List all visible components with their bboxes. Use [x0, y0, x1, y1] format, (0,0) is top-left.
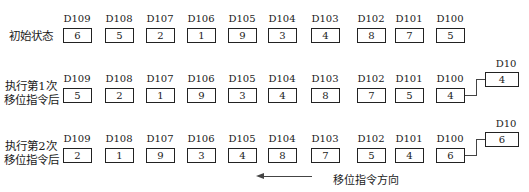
register-name: D101 — [391, 13, 427, 24]
register-value-box: 5 — [105, 28, 134, 43]
register-name: D104 — [264, 13, 300, 24]
row-label-line1: 执行第1次 — [0, 79, 62, 93]
register-value-box: 7 — [311, 148, 340, 163]
direction-label: 移位指令方向 — [333, 171, 399, 187]
output-register-box: 6 — [485, 132, 519, 147]
register-value-box: 7 — [357, 88, 386, 103]
register-name: D109 — [59, 133, 95, 144]
register-value-box: 4 — [228, 148, 257, 163]
register-value-box: 3 — [268, 28, 297, 43]
connector-line — [476, 139, 485, 140]
connector-line — [476, 79, 485, 80]
row-label-line2: 移位指令后 — [0, 93, 62, 107]
register-value-box: 6 — [436, 148, 465, 163]
register-name: D103 — [307, 133, 343, 144]
register-value-box: 3 — [228, 88, 257, 103]
output-register-name: D10 — [488, 118, 524, 129]
register-name: D107 — [142, 73, 178, 84]
register-name: D103 — [307, 73, 343, 84]
register-name: D100 — [432, 73, 468, 84]
register-name: D105 — [224, 73, 260, 84]
register-name: D102 — [353, 73, 389, 84]
register-value-box: 4 — [395, 148, 424, 163]
register-value-box: 8 — [268, 148, 297, 163]
register-name: D106 — [183, 133, 219, 144]
register-name: D101 — [391, 73, 427, 84]
register-value-box: 5 — [63, 88, 92, 103]
register-name: D102 — [353, 13, 389, 24]
register-value-box: 5 — [395, 88, 424, 103]
register-name: D100 — [432, 133, 468, 144]
register-value-box: 4 — [436, 88, 465, 103]
register-value-box: 9 — [146, 148, 175, 163]
register-name: D104 — [264, 133, 300, 144]
row-label: 执行第1次移位指令后 — [0, 79, 62, 107]
register-value-box: 2 — [105, 88, 134, 103]
register-value-box: 3 — [187, 148, 216, 163]
connector-line — [476, 79, 477, 96]
register-name: D108 — [101, 13, 137, 24]
register-name: D101 — [391, 133, 427, 144]
output-register-name: D10 — [488, 58, 524, 69]
register-name: D103 — [307, 13, 343, 24]
row-label-line1: 执行第2次 — [0, 139, 62, 153]
register-name: D107 — [142, 133, 178, 144]
connector-line — [465, 155, 476, 156]
connector-line — [476, 139, 477, 156]
register-value-box: 1 — [187, 28, 216, 43]
register-name: D102 — [353, 133, 389, 144]
row-label: 初始状态 — [0, 29, 62, 43]
register-name: D109 — [59, 13, 95, 24]
register-value-box: 8 — [357, 28, 386, 43]
register-name: D108 — [101, 133, 137, 144]
register-value-box: 4 — [311, 28, 340, 43]
register-value-box: 1 — [105, 148, 134, 163]
output-register-box: 4 — [485, 72, 519, 87]
register-name: D105 — [224, 13, 260, 24]
register-value-box: 2 — [146, 28, 175, 43]
register-name: D100 — [432, 13, 468, 24]
register-value-box: 8 — [311, 88, 340, 103]
register-value-box: 6 — [63, 28, 92, 43]
row-label: 执行第2次移位指令后 — [0, 139, 62, 167]
register-value-box: 4 — [268, 88, 297, 103]
register-name: D109 — [59, 73, 95, 84]
register-value-box: 2 — [63, 148, 92, 163]
register-name: D106 — [183, 13, 219, 24]
register-value-box: 9 — [228, 28, 257, 43]
register-value-box: 1 — [146, 88, 175, 103]
register-name: D104 — [264, 73, 300, 84]
direction-arrow-line — [262, 176, 312, 177]
register-name: D108 — [101, 73, 137, 84]
register-name: D105 — [224, 133, 260, 144]
register-value-box: 5 — [357, 148, 386, 163]
register-name: D106 — [183, 73, 219, 84]
row-label-line2: 移位指令后 — [0, 153, 62, 167]
register-value-box: 9 — [187, 88, 216, 103]
connector-line — [465, 95, 476, 96]
register-value-box: 7 — [395, 28, 424, 43]
register-value-box: 5 — [436, 28, 465, 43]
register-name: D107 — [142, 13, 178, 24]
